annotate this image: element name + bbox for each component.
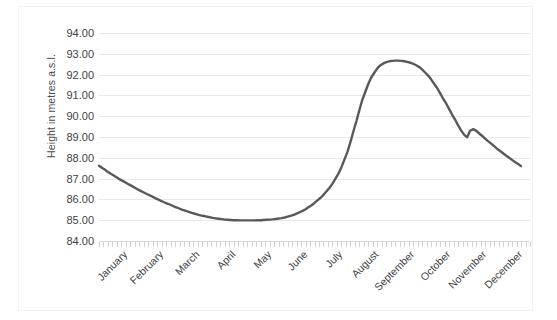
minor-tick xyxy=(166,242,167,247)
minor-tick xyxy=(499,242,500,247)
y-tick-label: 90.00 xyxy=(42,110,94,122)
minor-tick xyxy=(207,242,208,247)
minor-tick xyxy=(261,242,262,247)
minor-tick xyxy=(202,242,203,247)
y-tick-label: 86.00 xyxy=(42,193,94,205)
minor-tick xyxy=(279,242,280,247)
minor-tick xyxy=(440,242,441,247)
minor-tick xyxy=(359,242,360,247)
minor-tick xyxy=(485,242,486,247)
minor-tick xyxy=(503,242,504,247)
minor-tick xyxy=(467,242,468,247)
minor-tick xyxy=(220,242,221,247)
minor-tick xyxy=(449,242,450,247)
minor-tick xyxy=(130,242,131,247)
minor-tick xyxy=(427,242,428,247)
minor-tick xyxy=(319,242,320,247)
minor-tick xyxy=(530,242,531,247)
minor-tick xyxy=(346,242,347,247)
minor-tick xyxy=(171,242,172,247)
minor-tick xyxy=(157,242,158,247)
minor-tick xyxy=(454,242,455,247)
minor-tick xyxy=(481,242,482,247)
minor-tick xyxy=(386,242,387,247)
y-tick-label: 92.00 xyxy=(42,69,94,81)
minor-tick xyxy=(270,242,271,247)
minor-tick xyxy=(139,242,140,247)
minor-tick xyxy=(225,242,226,247)
minor-tick xyxy=(283,242,284,247)
y-tick-label: 91.00 xyxy=(42,89,94,101)
minor-tick xyxy=(180,242,181,247)
minor-tick xyxy=(148,242,149,247)
minor-tick xyxy=(189,242,190,247)
minor-tick xyxy=(153,242,154,247)
minor-tick xyxy=(297,242,298,247)
minor-tick xyxy=(508,242,509,247)
minor-tick xyxy=(211,242,212,247)
minor-tick xyxy=(99,242,100,247)
minor-tick xyxy=(103,242,104,247)
minor-tick xyxy=(377,242,378,247)
y-tick-label: 94.00 xyxy=(42,27,94,39)
minor-tick xyxy=(234,242,235,247)
minor-tick xyxy=(517,242,518,247)
minor-tick xyxy=(476,242,477,247)
minor-tick xyxy=(198,242,199,247)
minor-tick xyxy=(252,242,253,247)
minor-tick xyxy=(301,242,302,247)
minor-tick xyxy=(328,242,329,247)
minor-tick xyxy=(292,242,293,247)
minor-tick xyxy=(373,242,374,247)
x-axis-tick-labels: JanuaryFebruaryMarchAprilMayJuneJulyAugu… xyxy=(99,248,530,318)
minor-tick xyxy=(445,242,446,247)
minor-tick xyxy=(355,242,356,247)
minor-tick xyxy=(247,242,248,247)
minor-tick xyxy=(216,242,217,247)
minor-tick xyxy=(512,242,513,247)
y-tick-label: 89.00 xyxy=(42,131,94,143)
minor-tick xyxy=(418,242,419,247)
minor-tick xyxy=(265,242,266,247)
minor-tick xyxy=(350,242,351,247)
minor-tick xyxy=(144,242,145,247)
minor-tick xyxy=(310,242,311,247)
minor-tick xyxy=(162,242,163,247)
minor-tick xyxy=(126,242,127,247)
minor-tick xyxy=(413,242,414,247)
minor-tick xyxy=(288,242,289,247)
minor-tick xyxy=(391,242,392,247)
minor-tick xyxy=(337,242,338,247)
minor-tick xyxy=(108,242,109,247)
minor-tick xyxy=(526,242,527,247)
y-tick-label: 85.00 xyxy=(42,214,94,226)
series-path xyxy=(99,61,521,221)
minor-tick xyxy=(472,242,473,247)
minor-tick xyxy=(135,242,136,247)
minor-tick xyxy=(341,242,342,247)
minor-tick xyxy=(422,242,423,247)
minor-tick xyxy=(521,242,522,247)
minor-tick xyxy=(121,242,122,247)
minor-tick xyxy=(436,242,437,247)
minor-tick xyxy=(404,242,405,247)
minor-tick xyxy=(382,242,383,247)
minor-tick xyxy=(117,242,118,247)
line-chart: Height in metres a.s.l. 94.0093.0092.009… xyxy=(0,0,557,320)
minor-tick xyxy=(175,242,176,247)
minor-tick xyxy=(256,242,257,247)
minor-tick xyxy=(368,242,369,247)
minor-tick xyxy=(229,242,230,247)
y-tick-label: 84.00 xyxy=(42,235,94,247)
minor-tick xyxy=(193,242,194,247)
minor-tick xyxy=(458,242,459,247)
series-line-height-in-metres xyxy=(99,33,530,241)
minor-tick xyxy=(400,242,401,247)
minor-tick xyxy=(112,242,113,247)
minor-tick xyxy=(332,242,333,247)
minor-tick xyxy=(243,242,244,247)
y-tick-label: 87.00 xyxy=(42,173,94,185)
minor-tick xyxy=(323,242,324,247)
minor-tick xyxy=(431,242,432,247)
minor-tick xyxy=(490,242,491,247)
